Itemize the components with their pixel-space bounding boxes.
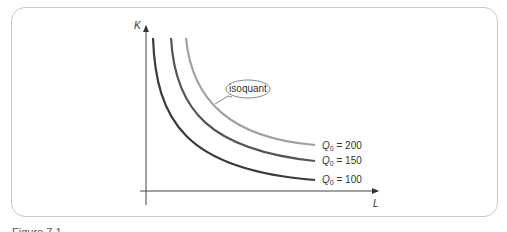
isoquant-callout: isoquant (215, 80, 270, 104)
label-q100: Q0 = 100 (322, 174, 362, 186)
isoquant-chart: K L Q0 = 200 Q0 = 150 Q0 = 100 isoquant (0, 0, 507, 232)
x-axis-label: L (373, 198, 379, 209)
svg-text:Q0 = 100: Q0 = 100 (322, 174, 362, 186)
label-q150: Q0 = 150 (322, 155, 362, 167)
svg-text:Q0 = 200: Q0 = 200 (322, 140, 362, 152)
label-q200: Q0 = 200 (322, 140, 362, 152)
figure-caption: Figure 7.1 (12, 226, 62, 232)
svg-text:Q0 = 150: Q0 = 150 (322, 155, 362, 167)
y-axis-label: K (134, 20, 142, 31)
svg-text:isoquant: isoquant (229, 83, 267, 94)
